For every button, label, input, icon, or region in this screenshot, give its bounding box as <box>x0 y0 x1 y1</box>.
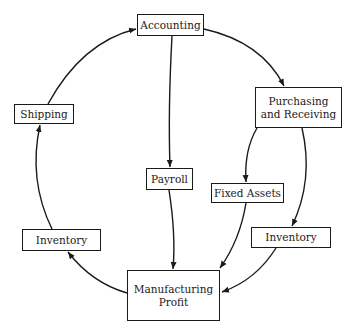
node-purchasing-and-receiving: Purchasing and Receiving <box>255 87 342 128</box>
edge-payroll-to-manufacturing <box>169 190 174 269</box>
node-accounting: Accounting <box>137 14 204 36</box>
node-manufacturing-label-line2: Profit <box>159 296 189 309</box>
node-payroll: Payroll <box>146 168 193 190</box>
node-fixed-assets: Fixed Assets <box>211 183 284 203</box>
edge-purchasing-to-fixedassets <box>246 128 257 182</box>
node-fixed-assets-label: Fixed Assets <box>214 187 281 200</box>
edge-manufacturing-to-inventory-left <box>68 252 127 293</box>
edge-purchasing-to-inventory-right <box>292 128 306 226</box>
edge-shipping-to-accounting <box>48 29 136 104</box>
node-shipping: Shipping <box>14 104 74 124</box>
node-purchasing-label-line2: and Receiving <box>261 108 336 121</box>
edge-accounting-to-payroll <box>169 36 172 167</box>
edge-inventory-right-to-manufacturing <box>222 248 276 292</box>
edge-accounting-to-purchasing <box>204 29 284 86</box>
node-shipping-label: Shipping <box>20 108 68 121</box>
node-purchasing-label-line1: Purchasing <box>269 95 329 108</box>
edge-inventory-left-to-shipping <box>36 125 52 229</box>
node-manufacturing-label-line1: Manufacturing <box>134 283 213 296</box>
node-payroll-label: Payroll <box>151 173 188 186</box>
node-accounting-label: Accounting <box>140 19 200 32</box>
node-inventory-left-label: Inventory <box>36 234 87 247</box>
node-inventory-right: Inventory <box>251 227 331 248</box>
edge-fixedassets-to-manufacturing <box>220 203 246 268</box>
node-manufacturing-profit: Manufacturing Profit <box>127 270 220 321</box>
node-inventory-left: Inventory <box>22 229 101 251</box>
node-inventory-right-label: Inventory <box>265 231 316 244</box>
